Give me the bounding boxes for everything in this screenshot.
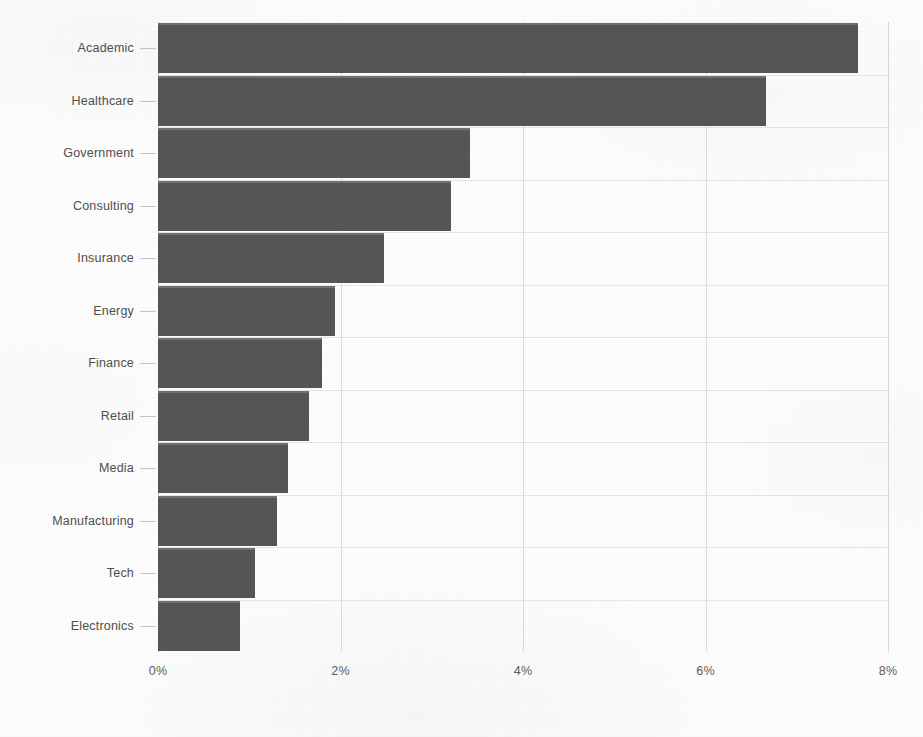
y-axis-tick-mark (140, 48, 156, 49)
y-axis-category-label: Electronics (0, 619, 134, 633)
y-axis-tick-mark (140, 101, 156, 102)
y-axis-tick-mark (140, 521, 156, 522)
x-axis-tick-label: 4% (514, 664, 532, 678)
gridline-vertical (888, 22, 889, 652)
y-axis-tick-mark (140, 258, 156, 259)
bar (158, 181, 451, 231)
y-axis-category-label: Healthcare (0, 94, 134, 108)
bar (158, 233, 384, 283)
bar (158, 128, 470, 178)
y-axis-category-label: Energy (0, 304, 134, 318)
bar (158, 23, 858, 73)
bar (158, 601, 240, 651)
x-axis-tick-label: 6% (696, 664, 714, 678)
bar (158, 548, 255, 598)
y-axis-tick-mark (140, 416, 156, 417)
bar (158, 286, 335, 336)
y-axis-category-label: Media (0, 461, 134, 475)
y-axis-category-label: Academic (0, 41, 134, 55)
bar (158, 443, 288, 493)
y-axis-tick-mark (140, 311, 156, 312)
x-axis-tick-label: 2% (331, 664, 349, 678)
bar (158, 496, 277, 546)
y-axis-tick-mark (140, 153, 156, 154)
y-axis-category-label: Tech (0, 566, 134, 580)
y-axis-tick-mark (140, 573, 156, 574)
y-axis-tick-mark (140, 206, 156, 207)
y-axis-category-label: Government (0, 146, 134, 160)
y-axis-tick-mark (140, 363, 156, 364)
y-axis-tick-mark (140, 626, 156, 627)
y-axis-category-label: Manufacturing (0, 514, 134, 528)
bar-chart: 0%2%4%6%8% AcademicHealthcareGovernmentC… (0, 0, 923, 737)
x-axis-tick-label: 8% (879, 664, 897, 678)
bar (158, 391, 309, 441)
bar (158, 76, 766, 126)
y-axis-category-label: Insurance (0, 251, 134, 265)
y-axis-category-label: Consulting (0, 199, 134, 213)
y-axis-category-label: Retail (0, 409, 134, 423)
x-axis-tick-label: 0% (149, 664, 167, 678)
y-axis-tick-mark (140, 468, 156, 469)
bar (158, 338, 322, 388)
y-axis-category-label: Finance (0, 356, 134, 370)
